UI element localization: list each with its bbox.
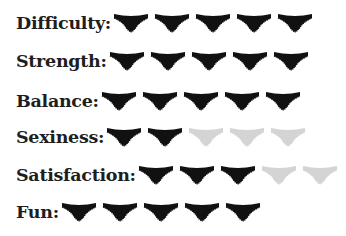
panties-icon-filled	[236, 12, 272, 34]
panties-icon-filled	[183, 90, 219, 112]
panties-icon-filled	[109, 50, 145, 72]
rating-row: Fun:	[16, 197, 261, 227]
rating-label: Fun:	[16, 202, 59, 222]
rating-row: Sexiness:	[16, 122, 306, 152]
panties-icon-empty	[270, 126, 306, 148]
rating-icons	[109, 50, 309, 72]
panties-icon-filled	[225, 201, 261, 223]
rating-icons	[106, 126, 306, 148]
rating-label: Balance:	[16, 91, 99, 111]
panties-icon-filled	[265, 90, 301, 112]
rating-icons	[101, 90, 301, 112]
rating-row: Difficulty:	[16, 8, 313, 38]
panties-icon-filled	[277, 12, 313, 34]
panties-icon-filled	[195, 12, 231, 34]
rating-icons	[113, 12, 313, 34]
panties-icon-empty	[229, 126, 265, 148]
rating-label: Sexiness:	[16, 127, 104, 147]
rating-icons	[61, 201, 261, 223]
rating-label: Satisfaction:	[16, 165, 136, 185]
panties-icon-filled	[61, 201, 97, 223]
panties-icon-empty	[261, 164, 297, 186]
panties-icon-empty	[302, 164, 338, 186]
panties-icon-filled	[154, 12, 190, 34]
panties-icon-filled	[220, 164, 256, 186]
panties-icon-filled	[150, 50, 186, 72]
panties-icon-filled	[147, 126, 183, 148]
panties-icon-empty	[188, 126, 224, 148]
panties-icon-filled	[102, 201, 138, 223]
panties-icon-filled	[101, 90, 137, 112]
panties-icon-filled	[191, 50, 227, 72]
panties-icon-filled	[184, 201, 220, 223]
rating-row: Strength:	[16, 46, 309, 76]
panties-icon-filled	[273, 50, 309, 72]
panties-icon-filled	[232, 50, 268, 72]
rating-label: Difficulty:	[16, 13, 111, 33]
rating-row: Satisfaction:	[16, 160, 338, 190]
panties-icon-filled	[142, 90, 178, 112]
panties-icon-filled	[224, 90, 260, 112]
panties-icon-filled	[113, 12, 149, 34]
rating-row: Balance:	[16, 86, 301, 116]
panties-icon-filled	[143, 201, 179, 223]
panties-icon-filled	[138, 164, 174, 186]
rating-label: Strength:	[16, 51, 107, 71]
panties-icon-filled	[106, 126, 142, 148]
panties-icon-filled	[179, 164, 215, 186]
rating-icons	[138, 164, 338, 186]
